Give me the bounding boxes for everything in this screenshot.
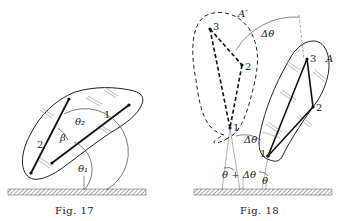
figure-17: 1 2 θ₂ β θ₁ Fig. 17 bbox=[8, 88, 146, 216]
label-point-1: 1 bbox=[260, 148, 266, 159]
label-theta-plus-delta: θ + Δθ bbox=[222, 169, 256, 180]
label-A: A bbox=[325, 53, 333, 64]
label-point-2-prime: 2 bbox=[245, 61, 251, 72]
label-beta: β bbox=[59, 132, 66, 143]
label-point-3-prime: 3 bbox=[213, 21, 219, 32]
theta-2-arc bbox=[64, 109, 128, 190]
label-line-1: 1 bbox=[104, 109, 110, 120]
hatch-marks-A bbox=[266, 60, 327, 134]
label-theta: θ bbox=[262, 175, 268, 186]
figures-svg: 1 2 θ₂ β θ₁ Fig. 17 bbox=[0, 0, 340, 221]
ground-hatch-18 bbox=[194, 189, 332, 195]
label-A-prime: A′ bbox=[237, 8, 248, 19]
label-line-2: 2 bbox=[37, 139, 43, 150]
label-theta-2: θ₂ bbox=[75, 116, 85, 127]
triangle-A-prime bbox=[210, 29, 242, 128]
diagram-canvas: 1 2 θ₂ β θ₁ Fig. 17 bbox=[0, 0, 340, 221]
label-point-1-prime: 1 bbox=[233, 122, 239, 133]
figure-18: A′ A 3 2 1 3 2 1 Δθ Δθ θ + Δθ θ Fig. 18 bbox=[193, 8, 333, 216]
label-theta-1: θ₁ bbox=[78, 163, 88, 174]
caption-fig-18: Fig. 18 bbox=[240, 205, 279, 216]
label-point-2: 2 bbox=[316, 102, 322, 113]
label-point-3: 3 bbox=[310, 53, 316, 64]
caption-fig-17: Fig. 17 bbox=[55, 205, 94, 216]
label-delta-theta-mid: Δθ bbox=[243, 134, 257, 145]
label-delta-theta-top: Δθ bbox=[260, 28, 274, 39]
body-A-prime-outline bbox=[193, 12, 258, 142]
ground-hatch bbox=[8, 189, 146, 195]
